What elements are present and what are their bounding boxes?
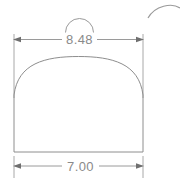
dimension-value-top: 8.48 [66, 32, 93, 47]
arc-length-symbol-icon [66, 19, 94, 33]
dimension-top-arc-length: 8.48 [13, 19, 144, 47]
dimension-value-bottom: 7.00 [67, 159, 94, 174]
cad-drawing-svg: 8.48 7.00 [0, 0, 180, 186]
dimension-bottom-linear: 7.00 [13, 159, 144, 174]
cropped-arc-fragment [148, 5, 180, 18]
profile-arc-top [14, 57, 143, 96]
profile-geometry [14, 57, 143, 153]
technical-drawing-canvas: 8.48 7.00 [0, 0, 180, 186]
